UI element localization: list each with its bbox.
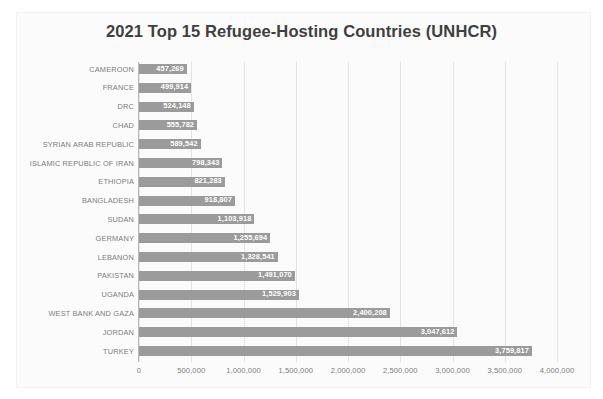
category-axis: CAMEROONFRANCEDRCCHADSYRIAN ARAB REPUBLI…	[18, 62, 134, 362]
category-label: JORDAN	[18, 328, 134, 338]
x-tick-label: 2,500,000	[383, 366, 418, 375]
category-label: PAKISTAN	[18, 271, 134, 281]
bar-row[interactable]: 457,269	[139, 64, 557, 74]
category-label: CHAD	[18, 121, 134, 131]
value-axis-ticks: 0500,0001,000,0001,500,0002,000,0002,500…	[139, 366, 557, 382]
category-label: ETHIOPIA	[18, 177, 134, 187]
bar-row[interactable]: 2,400,208	[139, 308, 557, 318]
category-label: UGANDA	[18, 290, 134, 300]
bar-row[interactable]: 1,103,918	[139, 214, 557, 224]
category-label: FRANCE	[18, 83, 134, 93]
bar-value-label: 3,759,817	[139, 346, 532, 356]
x-tick-label: 3,000,000	[435, 366, 470, 375]
plot-area: 457,269499,914524,148555,782589,542798,3…	[139, 62, 557, 362]
x-tick-label: 2,000,000	[331, 366, 366, 375]
bar-row[interactable]: 798,343	[139, 158, 557, 168]
bar-value-label: 1,255,694	[139, 233, 270, 243]
bar-value-label: 499,914	[139, 82, 191, 92]
bar-value-label: 524,148	[139, 101, 194, 111]
bar-value-label: 555,782	[139, 120, 197, 130]
category-label: SUDAN	[18, 215, 134, 225]
bar-row[interactable]: 1,328,541	[139, 252, 557, 262]
category-label: BANGLADESH	[18, 196, 134, 206]
bar-value-label: 1,103,918	[139, 214, 254, 224]
bar-row[interactable]: 589,542	[139, 139, 557, 149]
chart-container: 2021 Top 15 Refugee-Hosting Countries (U…	[0, 0, 603, 399]
bar-value-label: 918,807	[139, 195, 235, 205]
x-tick-label: 1,000,000	[226, 366, 261, 375]
bar-row[interactable]: 3,759,817	[139, 346, 557, 356]
bar-row[interactable]: 3,047,612	[139, 327, 557, 337]
bar-row[interactable]: 821,283	[139, 177, 557, 187]
x-tick-label: 500,000	[177, 366, 205, 375]
bar-value-label: 457,269	[139, 64, 187, 74]
bar-row[interactable]: 1,491,070	[139, 271, 557, 281]
bar-value-label: 821,283	[139, 176, 225, 186]
bar-value-label: 798,343	[139, 158, 222, 168]
gridline	[557, 62, 558, 362]
x-tick-label: 0	[137, 366, 141, 375]
bar-row[interactable]: 499,914	[139, 83, 557, 93]
category-label: WEST BANK AND GAZA	[18, 309, 134, 319]
bar-row[interactable]: 918,807	[139, 196, 557, 206]
category-label: ISLAMIC REPUBLIC OF IRAN	[18, 159, 134, 169]
bar-value-label: 1,491,070	[139, 270, 295, 280]
category-label: DRC	[18, 102, 134, 112]
chart-title: 2021 Top 15 Refugee-Hosting Countries (U…	[0, 22, 603, 41]
category-label: TURKEY	[18, 347, 134, 357]
bar-row[interactable]: 1,255,694	[139, 233, 557, 243]
category-label: GERMANY	[18, 234, 134, 244]
x-tick-label: 3,500,000	[487, 366, 522, 375]
bar-row[interactable]: 1,529,903	[139, 290, 557, 300]
bar-value-label: 1,529,903	[139, 289, 299, 299]
bar-value-label: 1,328,541	[139, 252, 278, 262]
category-label: CAMEROON	[18, 65, 134, 75]
bar-row[interactable]: 524,148	[139, 102, 557, 112]
bar-row[interactable]: 555,782	[139, 120, 557, 130]
x-tick-label: 4,000,000	[540, 366, 575, 375]
category-label: LEBANON	[18, 253, 134, 263]
bar-value-label: 2,400,208	[139, 308, 390, 318]
category-label: SYRIAN ARAB REPUBLIC	[18, 140, 134, 150]
bar-value-label: 589,542	[139, 139, 201, 149]
bar-value-label: 3,047,612	[139, 327, 457, 337]
x-tick-label: 1,500,000	[278, 366, 313, 375]
